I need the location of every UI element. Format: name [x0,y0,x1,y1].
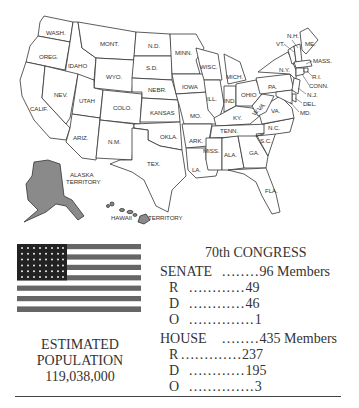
house-r-row: R.............237 [169,347,263,363]
svg-text:NEV.: NEV. [54,91,68,98]
party-count: 195 [245,363,266,378]
hawaii-label: HAWAII [111,214,132,221]
svg-text:KANSAS: KANSAS [150,109,175,116]
house-o-row: O..............3 [169,379,262,395]
svg-text:MO.: MO. [190,112,202,119]
congress-title: 70th CONGRESS [205,245,307,261]
svg-text:UTAH: UTAH [79,97,95,104]
leader-dots: ........ [222,331,260,346]
svg-text:MONT.: MONT. [100,40,119,47]
svg-text:N.H.: N.H. [287,32,299,39]
senate-o-row: O..............1 [169,312,262,328]
svg-text:VT.: VT. [276,40,285,47]
population-label-line1: ESTIMATED [10,337,150,353]
svg-text:N.D.: N.D. [148,42,160,49]
house-total-row: HOUSE........435 Members [160,331,337,347]
party-label: O [169,379,189,395]
population-value: 119,038,000 [10,369,150,385]
svg-text:WYO.: WYO. [106,73,122,80]
hawaii-territory-label: TERRITORY [148,214,183,221]
svg-text:IDAHO: IDAHO [68,62,87,69]
svg-text:COLO.: COLO. [113,104,132,111]
svg-text:OKLA.: OKLA. [160,133,178,140]
svg-text:ME.: ME. [305,40,316,47]
svg-text:OREG.: OREG. [39,53,59,60]
svg-text:MD.: MD. [300,109,311,116]
us-map: WASH. OREG. CALIF. IDAHO NEV. MONT. WYO.… [0,0,359,240]
house-d-row: D............195 [169,363,266,379]
party-label: D [169,363,189,379]
senate-label: SENATE [160,264,222,280]
svg-text:KY.: KY. [233,114,242,121]
alaska-label-2: TERRITORY [66,178,101,185]
svg-text:VA.: VA. [271,107,281,114]
svg-text:CONN.: CONN. [309,82,329,89]
svg-text:TEX.: TEX. [147,160,161,167]
alaska-territory [24,160,84,222]
svg-text:N.M.: N.M. [108,138,121,145]
svg-text:IOWA: IOWA [182,83,199,90]
svg-text:FLA.: FLA. [265,187,278,194]
svg-text:TENN.: TENN. [220,127,238,134]
svg-text:ILL.: ILL. [207,95,217,102]
flag-canton [17,244,67,280]
svg-text:R.I.: R.I. [312,73,322,80]
svg-text:PA.: PA. [268,83,278,90]
leader-dots: ........ [222,264,260,279]
senate-total-row: SENATE........96 Members [160,264,330,280]
svg-text:NEBR.: NEBR. [148,86,167,93]
house-label: HOUSE [160,331,222,347]
bottom-divider [15,396,341,397]
svg-text:OHIO: OHIO [241,91,257,98]
svg-text:S.D.: S.D. [146,64,158,71]
party-label: D [169,296,189,312]
house-total: 435 Members [260,331,337,346]
svg-text:MISS.: MISS. [203,147,220,154]
svg-text:MASS.: MASS. [313,57,332,64]
svg-text:ARK.: ARK. [189,137,203,144]
party-count: 3 [255,379,262,394]
svg-text:WASH.: WASH. [46,29,66,36]
svg-text:GA.: GA. [249,149,260,156]
svg-text:WISC.: WISC. [200,63,218,70]
state-nj [292,78,300,94]
svg-text:LA.: LA. [192,166,201,173]
party-label: R [169,280,189,296]
svg-text:S.C.: S.C. [260,137,272,144]
party-count: 1 [255,312,262,327]
population-label-line2: POPULATION [10,353,150,369]
party-label: O [169,312,189,328]
svg-text:N.J.: N.J. [307,91,318,98]
party-count: 237 [242,347,263,362]
party-count: 46 [245,296,259,311]
senate-d-row: D............46 [169,296,259,312]
alaska-label-1: ALASKA [70,171,94,178]
state-miss [206,138,222,170]
us-flag-48-star [17,244,141,312]
svg-text:CALIF.: CALIF. [30,105,48,112]
svg-text:N.C.: N.C. [268,124,280,131]
senate-r-row: R............49 [169,280,259,296]
svg-text:DEL.: DEL. [303,100,317,107]
svg-text:MINN.: MINN. [175,49,192,56]
svg-text:N.Y.: N.Y. [279,66,290,73]
party-count: 49 [245,280,259,295]
party-label: R [169,347,181,363]
svg-text:ALA.: ALA. [224,151,237,158]
svg-text:IND.: IND. [224,97,236,104]
senate-total: 96 Members [260,264,330,279]
svg-text:ARIZ.: ARIZ. [73,134,89,141]
svg-text:MICH.: MICH. [226,73,243,80]
